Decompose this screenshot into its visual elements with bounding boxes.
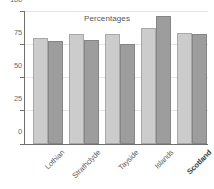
x-tick-label-tayside: Tayside (107, 148, 140, 181)
bar-islands-series-2[interactable] (156, 16, 171, 144)
y-tick-label-75: 75 (2, 29, 22, 37)
bar-strathclyde-series-2[interactable] (84, 40, 99, 144)
y-tick-100 (20, 11, 24, 12)
bar-strathclyde-series-1[interactable] (69, 34, 84, 144)
x-axis-labels: Lothian Strathclyde Tayside Islands Scot… (24, 146, 208, 189)
y-axis-line (24, 11, 25, 145)
y-tick-label-25: 25 (2, 95, 22, 103)
y-axis-labels: 100 75 50 25 0 (0, 0, 22, 134)
gridline-100 (25, 11, 208, 12)
x-tick-label-islands: Islands (142, 148, 175, 181)
x-tick-label-lothian: Lothian (35, 148, 67, 180)
y-tick-50 (20, 77, 24, 78)
bar-lothian-series-2[interactable] (48, 41, 63, 144)
bar-islands-series-1[interactable] (141, 28, 156, 144)
y-tick-label-50: 50 (2, 62, 22, 70)
bar-lothian-series-1[interactable] (33, 38, 48, 144)
x-tick-label-strathclyde: Strathclyde (61, 148, 103, 189)
bar-scotland-series-2[interactable] (192, 34, 207, 144)
y-tick-label-100: 100 (2, 0, 22, 4)
bar-tayside-series-1[interactable] (105, 34, 120, 144)
y-tick-75 (20, 44, 24, 45)
y-tick-0 (20, 144, 24, 145)
y-tick-25 (20, 110, 24, 111)
x-axis-line (24, 144, 208, 145)
plot-area (24, 11, 208, 145)
x-tick-label-scotland: Scotland (176, 148, 213, 185)
bar-tayside-series-2[interactable] (120, 44, 135, 144)
bar-chart: Percentages 100 75 50 25 0 (0, 0, 214, 189)
bar-scotland-series-1[interactable] (177, 33, 192, 144)
y-tick-label-0: 0 (2, 128, 22, 136)
